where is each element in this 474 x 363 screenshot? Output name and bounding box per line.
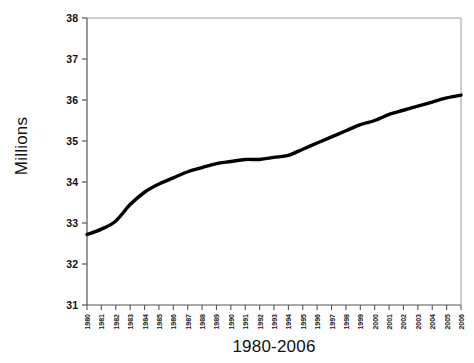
x-tick-label: 1999	[357, 314, 364, 330]
chart-figure: Millions 3132333435363738 19801981198219…	[0, 0, 474, 363]
x-tick-label: 2000	[372, 314, 379, 330]
y-tick-label: 37	[66, 53, 78, 65]
x-tick-label: 1996	[314, 314, 321, 330]
x-tick-label: 1984	[142, 314, 149, 330]
axis-frame	[87, 18, 461, 305]
y-tick-label: 36	[66, 94, 78, 106]
x-tick-label: 2005	[444, 314, 451, 330]
y-tick-label: 38	[66, 12, 78, 24]
x-axis-title: 1980-2006	[87, 337, 461, 357]
x-tick-label: 1993	[271, 314, 278, 330]
x-tick-label: 1985	[156, 314, 163, 330]
x-tick-label: 1981	[98, 314, 105, 330]
x-tick-label: 1983	[127, 314, 134, 330]
x-tick-label: 1997	[329, 314, 336, 330]
plot-area: 3132333435363738 19801981198219831984198…	[0, 0, 474, 363]
x-tick-label: 2003	[415, 314, 422, 330]
x-tick-label: 1994	[285, 314, 292, 330]
x-tick-label: 2002	[400, 314, 407, 330]
y-tick-group: 3132333435363738	[66, 12, 87, 311]
x-tick-label: 2004	[429, 314, 436, 330]
x-tick-label: 2006	[458, 314, 465, 330]
y-tick-label: 33	[66, 217, 78, 229]
x-tick-group: 1980198119821983198419851986198719881989…	[84, 305, 465, 330]
y-tick-label: 35	[66, 135, 78, 147]
x-tick-label: 1990	[228, 314, 235, 330]
x-tick-label: 1982	[113, 314, 120, 330]
x-tick-label: 1986	[170, 314, 177, 330]
x-tick-label: 1989	[213, 314, 220, 330]
y-tick-label: 31	[66, 299, 78, 311]
x-tick-label: 1992	[257, 314, 264, 330]
x-tick-label: 1995	[300, 314, 307, 330]
x-tick-label: 1980	[84, 314, 91, 330]
x-tick-label: 1998	[343, 314, 350, 330]
x-tick-label: 1987	[185, 314, 192, 330]
y-tick-label: 32	[66, 258, 78, 270]
x-tick-label: 1991	[242, 314, 249, 330]
x-tick-label: 1988	[199, 314, 206, 330]
x-tick-label: 2001	[386, 314, 393, 330]
data-line-series	[87, 95, 461, 234]
y-tick-label: 34	[66, 176, 78, 188]
